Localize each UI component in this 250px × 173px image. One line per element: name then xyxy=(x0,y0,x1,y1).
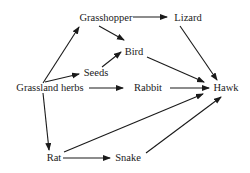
edge-grasshopper-bird xyxy=(99,26,124,40)
edge-snake-hawk xyxy=(146,97,221,153)
edge-seeds-bird xyxy=(102,52,121,67)
edge-rat-hawk xyxy=(64,94,203,152)
edge-bird-hawk xyxy=(147,57,204,82)
edge-herbs-seeds xyxy=(45,74,79,82)
node-grassland-herbs: Grassland herbs xyxy=(16,82,83,93)
node-bird: Bird xyxy=(125,46,144,57)
node-lizard: Lizard xyxy=(174,12,202,23)
node-snake: Snake xyxy=(115,152,141,163)
food-web-canvas: Grasshopper Lizard Bird Seeds Grassland … xyxy=(0,0,250,173)
node-hawk: Hawk xyxy=(213,82,239,93)
node-seeds: Seeds xyxy=(84,67,109,78)
edge-lizard-hawk xyxy=(180,26,217,80)
node-rat: Rat xyxy=(47,152,62,163)
edge-herbs-rat xyxy=(43,93,49,150)
node-grasshopper: Grasshopper xyxy=(79,12,133,23)
food-web-diagram: Grasshopper Lizard Bird Seeds Grassland … xyxy=(0,0,250,173)
edge-herbs-grasshopper xyxy=(43,27,79,83)
node-rabbit: Rabbit xyxy=(134,82,162,93)
